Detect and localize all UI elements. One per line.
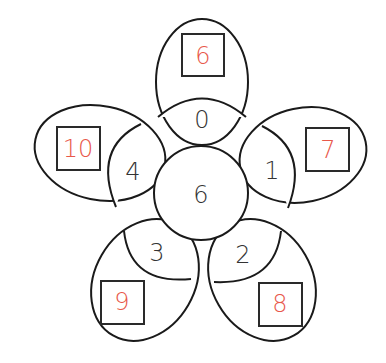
center-number: 6 [193, 181, 208, 209]
petal-right-outline [231, 96, 376, 215]
addition-flower-diagram: 6 0 7 1 10 4 9 3 8 2 6 [0, 0, 386, 363]
addend-top: 0 [194, 106, 209, 134]
petal-left: 10 4 [26, 93, 175, 212]
petal-right: 7 1 [231, 96, 376, 215]
addend-right: 1 [264, 157, 279, 185]
addend-bottom-left: 3 [149, 239, 164, 267]
answer-top: 6 [195, 42, 210, 70]
answer-left: 10 [63, 135, 94, 163]
answer-bottom-left: 9 [114, 288, 129, 316]
petal-top: 6 0 [156, 19, 248, 145]
answer-bottom-right: 8 [272, 290, 287, 318]
addend-bottom-right: 2 [235, 241, 250, 269]
addend-left: 4 [125, 158, 140, 186]
flower-center: 6 [154, 146, 248, 240]
answer-right: 7 [320, 136, 335, 164]
